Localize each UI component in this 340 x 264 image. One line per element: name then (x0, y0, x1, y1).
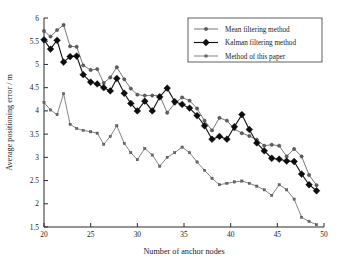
data-point (226, 182, 228, 184)
x-axis-ticks: 20253035404550 (40, 223, 328, 239)
data-point (278, 144, 281, 147)
data-point (233, 181, 235, 183)
data-point (278, 184, 280, 186)
data-point (166, 156, 168, 158)
y-axis-ticks: 1.522.533.544.555.56 (30, 14, 48, 232)
x-tick-label: 25 (87, 230, 95, 239)
data-point (292, 147, 295, 150)
data-point (276, 156, 283, 163)
x-tick-label: 40 (227, 230, 235, 239)
data-point (82, 129, 84, 131)
data-point (41, 36, 48, 43)
data-point (248, 182, 250, 184)
data-point (123, 142, 125, 144)
data-point (129, 87, 132, 90)
data-point (238, 111, 245, 118)
y-tick-label: 1.5 (30, 223, 40, 232)
data-point (263, 144, 266, 147)
data-point (96, 132, 98, 134)
data-point (224, 136, 231, 143)
legend-swatch-marker (204, 27, 207, 30)
y-tick-label: 5 (35, 60, 39, 69)
data-point (293, 198, 295, 200)
legend-swatch-marker (205, 55, 207, 57)
data-point (151, 94, 154, 97)
data-point (56, 113, 58, 115)
x-tick-label: 20 (40, 230, 48, 239)
data-point (171, 98, 178, 105)
data-point (123, 78, 126, 81)
data-point (291, 158, 298, 165)
data-point (103, 143, 105, 145)
data-point (179, 101, 186, 108)
data-point (300, 216, 302, 218)
x-tick-label: 50 (320, 230, 328, 239)
y-tick-label: 2 (35, 199, 39, 208)
data-point (55, 28, 58, 31)
data-point (68, 45, 71, 48)
x-tick-label: 30 (134, 230, 142, 239)
series-line (44, 40, 317, 191)
data-point (151, 154, 153, 156)
data-point (94, 81, 101, 88)
legend-label: Method of this paper (225, 53, 286, 61)
data-point (96, 67, 99, 70)
data-point (218, 116, 221, 119)
data-point (240, 131, 243, 134)
data-point (218, 184, 220, 186)
data-point (181, 146, 183, 148)
y-tick-label: 2.5 (30, 176, 40, 185)
data-point (121, 90, 128, 97)
data-point (180, 96, 183, 99)
y-tick-label: 6 (35, 14, 39, 23)
y-tick-label: 3 (35, 153, 39, 162)
data-point (188, 152, 190, 154)
data-point (203, 169, 205, 171)
y-tick-label: 3.5 (30, 130, 40, 139)
data-point (286, 189, 288, 191)
data-point (225, 119, 228, 122)
x-tick-label: 35 (180, 230, 188, 239)
data-point (210, 129, 213, 132)
y-tick-label: 4 (35, 106, 39, 115)
data-point (107, 88, 114, 95)
chart-figure: 1.522.533.544.555.56 20253035404550 Numb… (0, 0, 340, 264)
data-point (315, 184, 318, 187)
data-point (43, 101, 45, 103)
data-point (315, 224, 317, 226)
data-point (231, 123, 238, 130)
y-axis-title: Average positioning error / m (5, 74, 14, 171)
data-point (188, 99, 191, 102)
data-point (203, 119, 206, 122)
y-tick-label: 5.5 (30, 37, 40, 46)
chart-legend: Mean filtering methodKalman filtering me… (188, 18, 322, 62)
data-point (209, 136, 216, 143)
data-point (174, 152, 176, 154)
data-point (270, 143, 273, 146)
data-point (136, 159, 138, 161)
data-point (49, 35, 52, 38)
data-point (130, 152, 132, 154)
x-axis-title: Number of anchor nodes (143, 247, 224, 256)
legend-label: Kalman filtering method (225, 39, 296, 47)
data-point (76, 127, 78, 129)
data-point (116, 125, 118, 127)
data-point (136, 93, 139, 96)
legend-label: Mean filtering method (225, 26, 290, 34)
data-point (196, 161, 198, 163)
data-point (144, 147, 146, 149)
data-point (109, 76, 112, 79)
data-point (211, 177, 213, 179)
data-point (62, 23, 65, 26)
data-point (115, 66, 118, 69)
data-point (248, 134, 251, 137)
data-point (308, 220, 310, 222)
data-point (216, 133, 223, 140)
data-point (159, 165, 161, 167)
data-point (256, 185, 258, 187)
y-tick-label: 4.5 (30, 83, 40, 92)
data-point (82, 64, 85, 67)
data-point (246, 126, 253, 133)
data-point (307, 173, 310, 176)
data-point (69, 123, 71, 125)
